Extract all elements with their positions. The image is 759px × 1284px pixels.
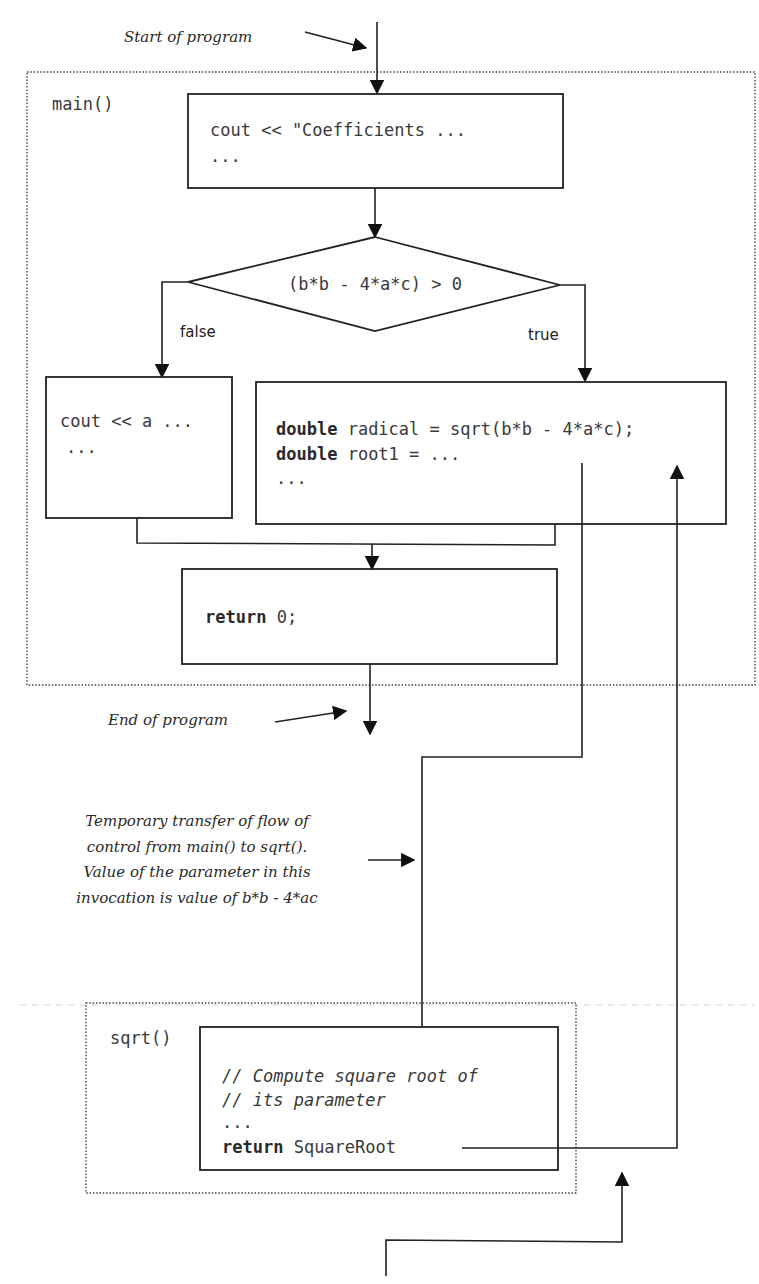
svg-text:return SquareRoot: return SquareRoot — [222, 1137, 396, 1157]
main-function-label: main() — [52, 94, 113, 114]
start-annotation-arrow-icon — [305, 32, 366, 48]
svg-text:...: ... — [210, 146, 241, 166]
return-statement-block: return 0; — [182, 569, 557, 664]
true-branch-arrow-icon — [560, 285, 585, 381]
svg-text:Value of the parameter in this: Value of the parameter in this — [83, 863, 310, 881]
incoming-flow-arrow-icon — [386, 1173, 622, 1276]
start-of-program-annotation: Start of program — [124, 28, 252, 46]
svg-text:control from main() to sqrt(): control from main() to sqrt(). — [87, 838, 308, 856]
svg-text:...: ... — [276, 468, 307, 488]
svg-text:...: ... — [66, 437, 97, 457]
svg-text:Temporary transfer of flow of: Temporary transfer of flow of — [85, 812, 311, 830]
end-of-program-annotation: End of program — [107, 711, 228, 729]
false-statement-block: cout << a ... ... — [46, 377, 232, 518]
call-transfer-arrow-icon — [422, 463, 582, 1050]
svg-text:double radical = sqrt(b*b - 4*: double radical = sqrt(b*b - 4*a*c); — [276, 419, 634, 439]
end-annotation-arrow-icon — [275, 711, 346, 722]
sqrt-function-label: sqrt() — [110, 1028, 171, 1048]
svg-text:cout << "Coefficients ...: cout << "Coefficients ... — [210, 120, 466, 140]
true-statement-block: double radical = sqrt(b*b - 4*a*c); doub… — [256, 382, 726, 524]
svg-text:// Compute square root of: // Compute square root of — [222, 1066, 479, 1086]
svg-text:...: ... — [222, 1112, 253, 1132]
flow-of-control-diagram: Start of program main() cout << "Coeffic… — [0, 0, 759, 1284]
svg-text:double root1 = ...: double root1 = ... — [276, 444, 460, 464]
first-statement-block: cout << "Coefficients ... ... — [188, 94, 563, 188]
svg-text:(b*b - 4*a*c) > 0: (b*b - 4*a*c) > 0 — [288, 274, 462, 294]
true-branch-label: true — [528, 326, 559, 344]
svg-text:invocation is value of b*b -: invocation is value of b*b - 4*ac — [76, 889, 318, 907]
svg-text:// its parameter: // its parameter — [222, 1090, 387, 1110]
transfer-annotation: Temporary transfer of flow of control fr… — [76, 812, 318, 907]
svg-text:cout << a ...: cout << a ... — [60, 411, 193, 431]
decision-diamond: (b*b - 4*a*c) > 0 — [188, 237, 560, 331]
false-branch-label: false — [180, 323, 216, 341]
svg-text:return 0;: return 0; — [205, 607, 297, 627]
